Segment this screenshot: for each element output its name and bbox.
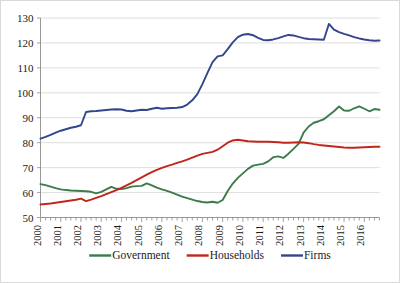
x-tick-label-2016: 2016 (355, 225, 366, 246)
y-tick-label-110: 110 (17, 62, 34, 74)
y-tick-label-50: 50 (23, 212, 35, 224)
x-tick-label-2014: 2014 (315, 224, 326, 246)
chart-legend: GovernmentHouseholdsFirms (89, 249, 331, 261)
x-tick-label-2002: 2002 (72, 225, 83, 246)
data-series (41, 24, 380, 205)
x-tick-label-2010: 2010 (234, 225, 245, 246)
y-tick-label-80: 80 (23, 137, 35, 149)
legend-label-firms: Firms (304, 249, 331, 261)
x-tick-label-2004: 2004 (112, 224, 123, 246)
y-tick-label-60: 60 (23, 187, 35, 199)
x-tick-label-2007: 2007 (173, 225, 184, 246)
x-axis-tick-labels: 2000200120022003200420052006200720082009… (32, 218, 380, 247)
line-chart: 5060708090100110120130 20002001200220032… (1, 1, 400, 283)
legend-label-government: Government (112, 249, 170, 261)
x-tick-label-2013: 2013 (295, 225, 306, 246)
gridlines (41, 18, 380, 193)
x-tick-label-2003: 2003 (92, 225, 103, 246)
x-tick-label-2008: 2008 (193, 225, 204, 246)
x-tick-label-2015: 2015 (335, 225, 346, 246)
y-tick-label-100: 100 (17, 87, 34, 99)
y-axis-tick-labels: 5060708090100110120130 (17, 12, 41, 224)
x-tick-label-2011: 2011 (254, 225, 265, 246)
series-line-government (41, 106, 380, 203)
legend-label-households: Households (210, 249, 265, 261)
y-tick-label-70: 70 (23, 162, 35, 174)
series-line-households (41, 140, 380, 205)
x-tick-label-2009: 2009 (214, 225, 225, 246)
x-tick-label-2006: 2006 (153, 225, 164, 246)
chart-figure: 5060708090100110120130 20002001200220032… (0, 0, 400, 283)
y-tick-label-130: 130 (17, 12, 34, 24)
x-tick-label-2012: 2012 (274, 225, 285, 246)
x-tick-label-2000: 2000 (32, 225, 43, 246)
x-tick-label-2005: 2005 (133, 225, 144, 246)
x-tick-label-2001: 2001 (52, 225, 63, 246)
y-tick-label-90: 90 (23, 112, 35, 124)
y-tick-label-120: 120 (17, 37, 34, 49)
series-line-firms (41, 24, 380, 139)
